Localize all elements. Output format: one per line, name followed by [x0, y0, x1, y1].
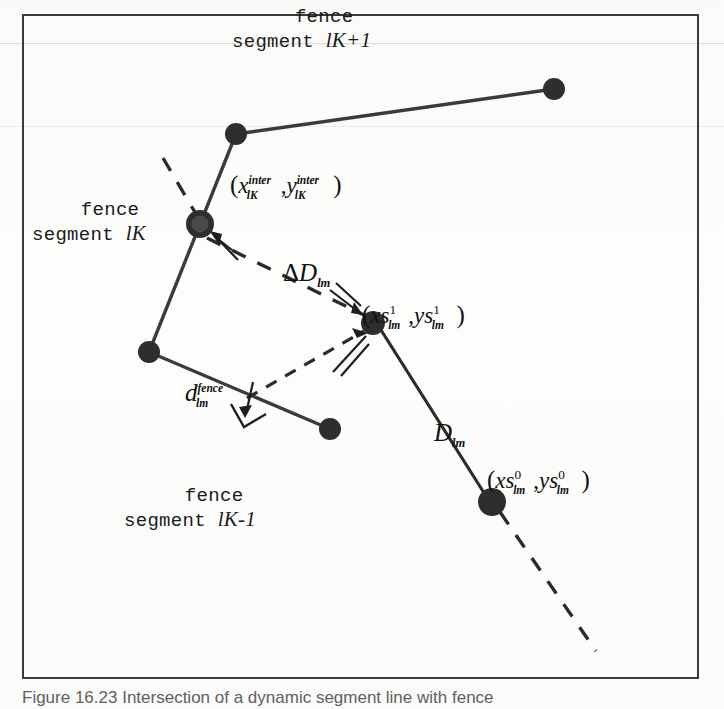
trajectory-dashed-upper [163, 158, 196, 214]
intersection-y-superscript: inter [297, 174, 319, 186]
point1-close-paren: ) [457, 301, 465, 328]
point1-x-subscript: lm [388, 319, 400, 331]
dist-d-base: D [434, 419, 452, 446]
delta-distance-label: ΔDlm [283, 258, 330, 291]
trajectory-dashed-lower [500, 512, 596, 651]
point0-y-base: ys [539, 468, 558, 493]
point1-y-superscript: 1 [433, 302, 440, 317]
point0-y-subscript: lm [557, 484, 569, 496]
fence-kminus1-index: lK-1 [218, 507, 257, 531]
fence-distance-label: dfencelm [185, 378, 208, 411]
point1-y-base: ys [414, 303, 433, 328]
intersection-x-subscript: lK [247, 189, 258, 201]
segment-distance-label: Dlm [434, 418, 465, 451]
intersection-node-inner [192, 216, 209, 233]
d-fence-subscript: lm [196, 397, 208, 409]
fence-segment-k-label: fence segment lK [74, 199, 146, 247]
intersection-close-paren: ) [333, 171, 341, 198]
diagram-canvas [0, 0, 724, 709]
pointer-right-angle-head [239, 405, 252, 418]
fence-vertex-right [543, 78, 565, 100]
perpendicular-distance-line [247, 331, 364, 398]
fence-kplus1-line2: segment [232, 31, 314, 53]
intersection-coordinates-label: (xinterlK,yinterlK) [230, 170, 342, 202]
point1-x-superscript: 1 [390, 302, 397, 317]
intersection-y-subscript: lK [295, 189, 306, 201]
fence-k-line1: fence [81, 199, 140, 221]
fence-segment-kminus1-label: fence segment lK-1 [172, 485, 256, 533]
point0-close-paren: ) [582, 466, 590, 493]
fence-vertex-bottom-right [319, 418, 341, 440]
segment-point-0-label: (xs0lm,ys0lm) [487, 465, 590, 497]
fence-kminus1-line1: fence [185, 485, 244, 507]
intersection-x-superscript: inter [249, 174, 271, 186]
segment-point-1-label: (xs1lm,ys1lm) [362, 300, 465, 332]
point1-y-subscript: lm [432, 319, 444, 331]
fence-kplus1-index: lK+1 [326, 28, 372, 52]
fence-vertex-lower [138, 341, 160, 363]
fence-segment-kplus1-label: fence segment lK+1 [277, 6, 371, 54]
delta-d-base: D [299, 259, 317, 286]
fence-kplus1-line1: fence [295, 6, 354, 28]
delta-d-subscript: lm [317, 276, 330, 290]
figure-root: fence segment lK+1 fence segment lK fenc… [0, 0, 724, 709]
point0-y-superscript: 0 [558, 467, 565, 482]
d-fence-superscript: fence [198, 382, 224, 394]
fence-polyline [149, 89, 554, 429]
point0-x-superscript: 0 [515, 467, 522, 482]
fence-vertex-upper [225, 123, 247, 145]
delta-symbol: Δ [283, 259, 299, 286]
point0-x-base: xs [495, 468, 514, 493]
fence-k-index: lK [126, 221, 146, 245]
trajectory-solid-segment [381, 330, 486, 496]
fence-kminus1-line2: segment [124, 510, 206, 532]
fence-k-line2: segment [32, 224, 114, 246]
figure-caption: Figure 16.23 Intersection of a dynamic s… [22, 688, 722, 709]
point1-x-base: xs [370, 303, 389, 328]
dist-d-subscript: lm [452, 436, 465, 450]
point0-x-subscript: lm [513, 484, 525, 496]
